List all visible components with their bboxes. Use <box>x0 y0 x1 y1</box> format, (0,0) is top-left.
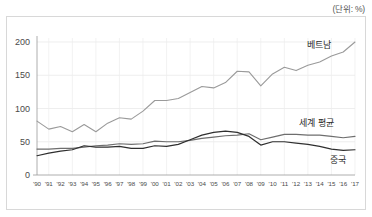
x-tick-label: '08 <box>245 180 254 187</box>
y-tick-label: 200 <box>15 37 30 47</box>
series-label-세계 평균: 세계 평균 <box>299 117 334 128</box>
x-tick-label: '13 <box>304 180 313 187</box>
x-tick-label: '16 <box>339 180 348 187</box>
x-tick-label: '11 <box>281 180 289 187</box>
x-tick-label: '01 <box>163 180 172 187</box>
y-tick-label: 100 <box>15 104 30 114</box>
y-tick-label: 50 <box>20 137 30 147</box>
x-tick-label: '94 <box>80 180 89 187</box>
x-tick-label: '07 <box>233 180 242 187</box>
vertical-gridlines <box>49 38 355 175</box>
series-lines <box>37 42 355 156</box>
series-inline-labels: 베트남세계 평균중국 <box>299 40 346 165</box>
y-tick-label: 150 <box>15 70 30 80</box>
x-tick-label: '96 <box>104 180 113 187</box>
series-label-베트남: 베트남 <box>307 40 331 50</box>
x-tick-label: '02 <box>174 180 183 187</box>
x-tick-label: '17 <box>351 180 360 187</box>
series-label-중국: 중국 <box>330 155 346 165</box>
x-tick-label: '04 <box>198 180 207 187</box>
x-tick-label: '06 <box>221 180 230 187</box>
x-tick-label: '92 <box>57 180 66 187</box>
y-axis-tick-labels: 050100150200 <box>15 37 30 180</box>
x-tick-label: '93 <box>68 180 77 187</box>
x-tick-label: '15 <box>327 180 336 187</box>
x-tick-label: '90 <box>33 180 42 187</box>
x-tick-label: '12 <box>292 180 301 187</box>
x-tick-label: '98 <box>127 180 136 187</box>
x-tick-label: '09 <box>257 180 266 187</box>
chart-page: (단위: %) 050100150200 '90'91'92'93'94'95'… <box>0 0 372 217</box>
line-chart: 050100150200 '90'91'92'93'94'95'96'97'98… <box>0 0 372 217</box>
x-tick-label: '97 <box>115 180 124 187</box>
x-tick-label: '05 <box>210 180 219 187</box>
chart-plot-area: 050100150200 '90'91'92'93'94'95'96'97'98… <box>0 0 372 217</box>
x-tick-label: '03 <box>186 180 195 187</box>
x-tick-label: '99 <box>139 180 148 187</box>
x-tick-label: '95 <box>92 180 101 187</box>
y-tick-label: 0 <box>25 170 30 180</box>
x-tick-label: '10 <box>269 180 278 187</box>
x-tick-label: '00 <box>151 180 160 187</box>
x-axis-tick-labels: '90'91'92'93'94'95'96'97'98'99'00'01'02'… <box>33 180 360 187</box>
x-tick-label: '14 <box>316 180 325 187</box>
x-tick-label: '91 <box>45 180 54 187</box>
axis-lines <box>33 36 355 175</box>
